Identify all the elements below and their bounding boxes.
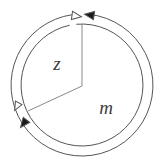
filled-arrowhead-top bbox=[84, 10, 95, 20]
wedge-radius-lower-left bbox=[28, 86, 82, 111]
filled-arrowhead-lower-left bbox=[17, 117, 29, 130]
diagram-svg: z m bbox=[0, 0, 163, 168]
hollow-arrowhead-top bbox=[71, 11, 82, 21]
label-outer-region-m: m bbox=[99, 97, 113, 118]
label-inner-region-z: z bbox=[52, 53, 61, 74]
figure-container: z m bbox=[0, 0, 163, 168]
